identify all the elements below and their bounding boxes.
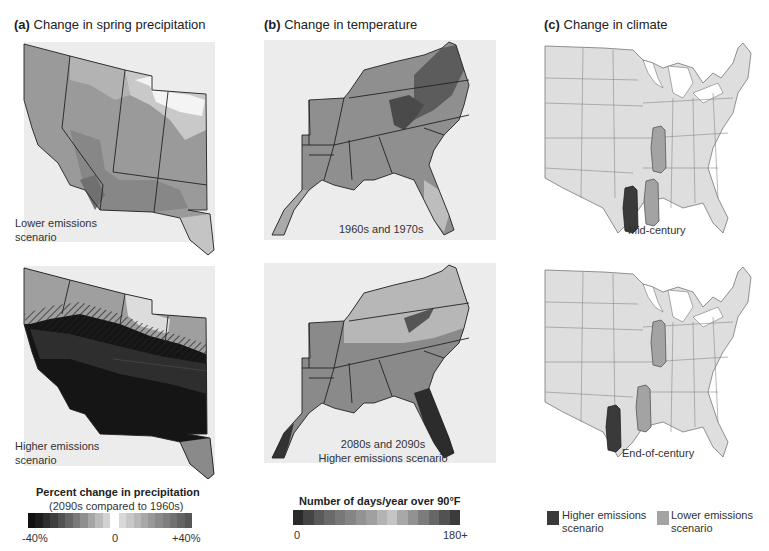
colorbar-swatch — [148, 513, 155, 528]
colorbar-swatch — [141, 513, 148, 528]
colorbar-swatch — [185, 513, 192, 528]
panel-c-title-text: Change in climate — [564, 17, 668, 32]
colorbar-swatch — [177, 513, 184, 528]
map-a1-label: Lower emissions scenario — [15, 216, 97, 244]
colorbar-swatch — [126, 513, 133, 528]
temp-tick-min: 0 — [294, 529, 300, 541]
colorbar-swatch — [80, 513, 87, 528]
colorbar-swatch — [293, 510, 303, 525]
colorbar-swatch — [43, 513, 50, 528]
panel-b-title: (b) Change in temperature — [264, 17, 417, 32]
colorbar-swatch — [170, 513, 177, 528]
temp-tick-max: 180+ — [443, 529, 468, 541]
precip-tick-zero: 0 — [112, 532, 118, 544]
colorbar-swatch — [439, 510, 449, 525]
map-b2-label: 2080s and 2090s Higher emissions scenari… — [318, 437, 448, 465]
colorbar-swatch — [314, 510, 324, 525]
panel-b-title-text: Change in temperature — [284, 17, 417, 32]
map-c1-label: Mid-century — [628, 223, 685, 237]
higher-emissions-label: Higher emissions scenario — [562, 509, 646, 535]
panel-a-title: (a) Change in spring precipitation — [14, 17, 206, 32]
colorbar-swatch — [303, 510, 313, 525]
panel-a-letter: (a) — [14, 17, 30, 32]
colorbar-swatch — [366, 510, 376, 525]
colorbar-swatch — [65, 513, 72, 528]
colorbar-swatch — [119, 513, 126, 528]
colorbar-swatch — [397, 510, 407, 525]
colorbar-swatch — [58, 513, 65, 528]
colorbar-swatch — [28, 513, 35, 528]
precip-legend-title: Percent change in precipitation — [36, 486, 200, 498]
map-southeast-2080s-2090s — [264, 263, 496, 463]
colorbar-swatch — [356, 510, 366, 525]
colorbar-swatch — [35, 513, 42, 528]
colorbar-swatch — [50, 513, 57, 528]
higher-emissions-swatch — [547, 511, 559, 525]
precip-legend-subtitle: (2090s compared to 1960s) — [49, 500, 184, 512]
map-c2-label: End-of-century — [622, 446, 694, 460]
map-b1-label: 1960s and 1970s — [339, 222, 423, 236]
map-southeast-1960s-1970s — [264, 40, 496, 240]
panel-a-title-text: Change in spring precipitation — [34, 17, 206, 32]
precip-colorbar-negative — [28, 513, 110, 528]
precip-colorbar-positive — [119, 513, 192, 528]
colorbar-swatch — [345, 510, 355, 525]
colorbar-swatch — [73, 513, 80, 528]
colorbar-swatch — [450, 510, 460, 525]
temp-colorbar — [293, 510, 460, 525]
colorbar-swatch — [103, 513, 110, 528]
lower-emissions-label: Lower emissions scenario — [671, 509, 753, 535]
colorbar-swatch — [377, 510, 387, 525]
panel-b-letter: (b) — [264, 17, 281, 32]
colorbar-swatch — [134, 513, 141, 528]
panel-c-title: (c) Change in climate — [544, 17, 668, 32]
colorbar-swatch — [163, 513, 170, 528]
colorbar-swatch — [418, 510, 428, 525]
colorbar-swatch — [324, 510, 334, 525]
temp-legend-title: Number of days/year over 90°F — [299, 495, 461, 507]
colorbar-swatch — [408, 510, 418, 525]
colorbar-swatch — [95, 513, 102, 528]
colorbar-swatch — [429, 510, 439, 525]
colorbar-swatch — [387, 510, 397, 525]
colorbar-swatch — [88, 513, 95, 528]
panel-c-letter: (c) — [544, 17, 560, 32]
precip-tick-min: -40% — [22, 532, 48, 544]
map-eastern-us-end-of-century — [543, 262, 758, 467]
colorbar-swatch — [155, 513, 162, 528]
map-a2-label: Higher emissions scenario — [15, 439, 99, 467]
precip-tick-max: +40% — [172, 532, 200, 544]
map-eastern-us-mid-century — [543, 38, 758, 243]
colorbar-swatch — [335, 510, 345, 525]
lower-emissions-swatch — [657, 511, 669, 525]
